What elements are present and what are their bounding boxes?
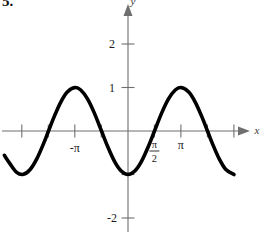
x-tick-label-pi-over-2-denominator: 2: [152, 153, 157, 164]
x-tick-label-pi-over-2-numerator: π: [152, 139, 158, 150]
y-axis-label: y: [130, 0, 136, 7]
x-axis-label: x: [254, 124, 260, 136]
y-tick-label-1: 1: [109, 81, 115, 95]
x-tick-label-neg-pi: -π: [70, 141, 80, 155]
x-axis-arrowhead: [238, 127, 250, 136]
y-tick-label-2: 2: [109, 37, 115, 51]
graph-svg: -π π 2 π 2 1 -2 x y: [0, 0, 266, 237]
problem-number: 5.: [2, 0, 13, 9]
x-tick-label-pi: π: [178, 138, 184, 152]
figure-container: 5. -π π 2 π 2 1 -2: [0, 0, 266, 237]
y-tick-label-neg-2: -2: [107, 211, 117, 225]
